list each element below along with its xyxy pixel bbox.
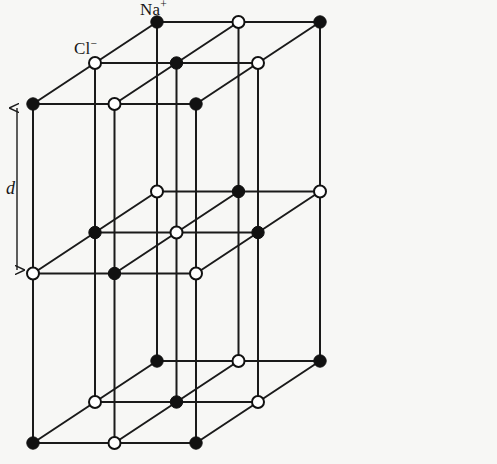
lattice-node-sodium-ion [252,226,264,238]
lattice-node-chloride-ion [89,57,101,69]
lattice-bond [196,233,258,274]
lattice-bond [177,22,239,63]
anion-charge: − [90,37,97,50]
lattice-node-chloride-ion [190,268,202,280]
lattice-node-sodium-ion [27,437,39,449]
lattice-node-sodium-ion [170,396,182,408]
lattice-node-sodium-ion [151,355,163,367]
lattice-node-chloride-ion [233,355,245,367]
dimension-label-d: d [6,179,15,197]
lattice-bond [95,22,157,63]
lattice-node-chloride-ion [109,98,121,110]
lattice-node-sodium-ion [190,98,202,110]
lattice-node-sodium-ion [170,57,182,69]
lattice-node-chloride-ion [252,396,264,408]
lattice-bond [33,233,95,274]
cation-charge: + [160,0,167,11]
lattice-node-chloride-ion [314,186,326,198]
lattice-diagram [0,0,497,464]
anion-symbol: Cl [74,39,90,58]
cation-label-na-plus: Na+ [140,1,167,18]
lattice-bond [258,192,320,233]
lattice-node-sodium-ion [314,16,326,28]
lattice-bond [33,402,95,443]
lattice-node-sodium-ion [27,98,39,110]
nacl-lattice-figure: Na+ Cl− d [0,0,497,464]
lattice-bond [95,361,157,402]
lattice-bond [177,361,239,402]
lattice-bond [196,63,258,104]
lattice-node-sodium-ion [89,226,101,238]
lattice-node-sodium-ion [314,355,326,367]
lattice-bond [115,233,177,274]
lattice-node-chloride-ion [27,268,39,280]
lattice-node-chloride-ion [171,227,183,239]
lattice-bond [95,192,157,233]
lattice-bond [196,402,258,443]
lattice-node-sodium-ion [232,185,244,197]
lattice-node-chloride-ion [233,16,245,28]
lattice-node-sodium-ion [190,437,202,449]
lattice-node-chloride-ion [89,396,101,408]
lattice-bond [115,402,177,443]
anion-label-cl-minus: Cl− [74,40,97,57]
lattice-node-chloride-ion [109,437,121,449]
lattice-bond [258,22,320,63]
lattice-bond [33,63,95,104]
cation-symbol: Na [140,0,160,19]
lattice-bond [177,192,239,233]
lattice-bond [258,361,320,402]
lattice-bond [115,63,177,104]
lattice-node-sodium-ion [108,267,120,279]
lattice-node-chloride-ion [252,57,264,69]
lattice-node-chloride-ion [151,186,163,198]
